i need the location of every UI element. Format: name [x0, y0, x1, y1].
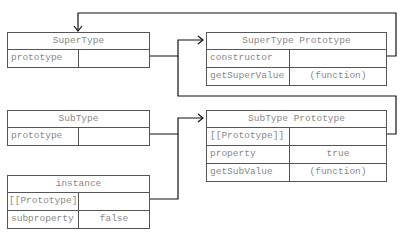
prototype-chain-diagram: SuperType prototype SuperType Prototype … — [0, 0, 403, 235]
row-value: (function) — [290, 164, 386, 181]
row-key: prototype — [8, 50, 79, 67]
box-row: prototype — [8, 128, 149, 145]
subtype-box: SubType prototype — [7, 110, 150, 146]
box-row: getSuperValue (function) — [207, 68, 386, 85]
box-title: SuperType — [8, 33, 149, 50]
box-row: getSubValue (function) — [207, 164, 386, 181]
box-title: instance — [8, 176, 149, 193]
row-key: [[Prototype]] — [8, 193, 79, 210]
row-value: true — [290, 146, 386, 163]
row-value — [79, 128, 149, 145]
box-row: prototype — [8, 50, 149, 67]
row-value: (function) — [290, 68, 386, 85]
row-key: getSuperValue — [207, 68, 290, 85]
row-key: constructor — [207, 50, 290, 67]
box-row: subproperty false — [8, 211, 149, 228]
box-row: property true — [207, 146, 386, 164]
supertype-prototype-box: SuperType Prototype constructor getSuper… — [206, 32, 387, 86]
row-value — [290, 128, 386, 145]
box-title: SubType Prototype — [207, 111, 386, 128]
row-key: property — [207, 146, 290, 163]
box-title: SuperType Prototype — [207, 33, 386, 50]
row-key: [[Prototype]] — [207, 128, 290, 145]
instance-box: instance [[Prototype]] subproperty false — [7, 175, 150, 229]
row-value — [79, 193, 149, 210]
supertype-box: SuperType prototype — [7, 32, 150, 68]
box-row: constructor — [207, 50, 386, 68]
row-value: false — [79, 211, 149, 228]
row-key: prototype — [8, 128, 79, 145]
row-key: subproperty — [8, 211, 79, 228]
box-title: SubType — [8, 111, 149, 128]
box-row: [[Prototype]] — [207, 128, 386, 146]
subtype-prototype-box: SubType Prototype [[Prototype]] property… — [206, 110, 387, 182]
box-row: [[Prototype]] — [8, 193, 149, 211]
row-value — [290, 50, 386, 67]
row-value — [79, 50, 149, 67]
row-key: getSubValue — [207, 164, 290, 181]
